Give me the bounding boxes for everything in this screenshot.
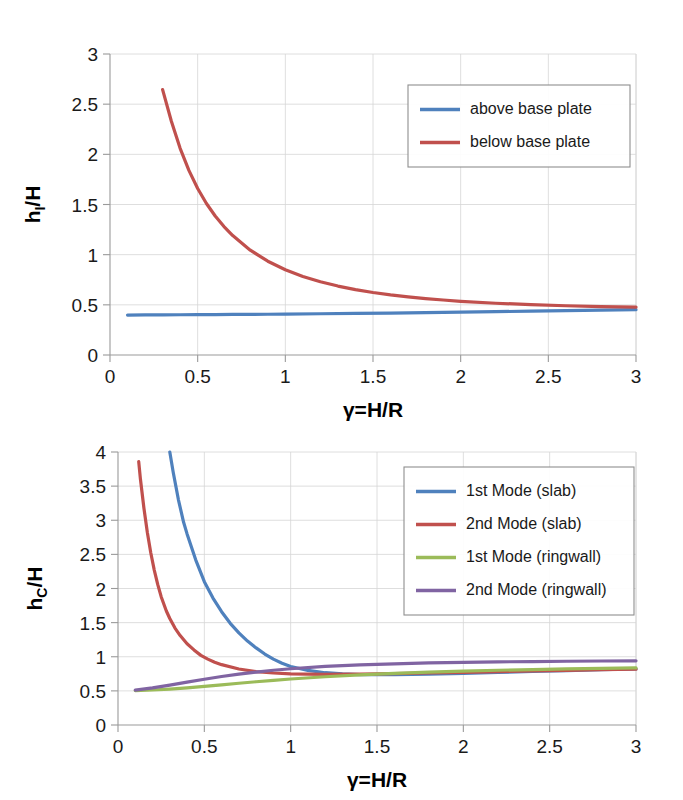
x-axis-title: γ=H/R [343,398,403,421]
x-tick-label: 0.5 [191,736,217,757]
y-tick-label: 1 [95,647,106,668]
legend-label: above base plate [470,100,592,117]
impulsive-height-chart: 00.511.522.5300.511.522.53γ=H/RhI/Habove… [0,0,683,425]
y-axis-title: hI/H [21,186,48,224]
x-tick-label: 0 [105,366,116,387]
x-tick-label: 1 [280,366,291,387]
y-tick-label: 2 [95,579,106,600]
legend-label: below base plate [470,133,590,150]
legend: above base platebelow base plate [408,85,630,167]
convective-height-chart-svg: 00.511.522.533.5400.511.522.53γ=H/RhC/H1… [0,425,683,800]
x-tick-label: 2 [455,366,466,387]
x-tick-label: 1.5 [360,366,386,387]
convective-height-chart: 00.511.522.533.5400.511.522.53γ=H/RhC/H1… [0,425,683,800]
legend-label: 2nd Mode (ringwall) [466,581,607,598]
legend-label: 2nd Mode (slab) [466,515,582,532]
x-tick-label: 3 [631,366,642,387]
x-tick-label: 1.5 [364,736,390,757]
y-tick-label: 0 [87,345,98,366]
y-axis-title: hC/H [23,567,50,611]
x-tick-label: 0.5 [184,366,210,387]
y-tick-label: 1.5 [80,613,106,634]
y-tick-label: 2.5 [80,544,106,565]
y-tick-label: 0 [95,715,106,736]
y-tick-label: 4 [95,442,106,463]
svg-text:hI/H: hI/H [21,186,48,224]
y-tick-label: 2.5 [72,94,98,115]
x-tick-label: 1 [285,736,296,757]
y-tick-label: 0.5 [80,681,106,702]
x-tick-label: 2 [458,736,469,757]
y-tick-label: 3 [95,510,106,531]
legend-box [408,85,630,167]
x-tick-label: 2.5 [535,366,561,387]
legend: 1st Mode (slab)2nd Mode (slab)1st Mode (… [404,467,634,615]
y-tick-label: 2 [87,144,98,165]
x-tick-label: 3 [631,736,642,757]
impulsive-height-chart-svg: 00.511.522.5300.511.522.53γ=H/RhI/Habove… [0,0,683,425]
x-tick-label: 2.5 [536,736,562,757]
y-tick-label: 3 [87,44,98,65]
legend-label: 1st Mode (slab) [466,482,576,499]
x-axis-title: γ=H/R [347,768,407,791]
y-tick-label: 1.5 [72,195,98,216]
y-tick-label: 0.5 [72,295,98,316]
svg-text:hC/H: hC/H [23,567,50,611]
y-tick-label: 3.5 [80,476,106,497]
y-tick-label: 1 [87,245,98,266]
x-tick-label: 0 [113,736,124,757]
legend-label: 1st Mode (ringwall) [466,548,601,565]
